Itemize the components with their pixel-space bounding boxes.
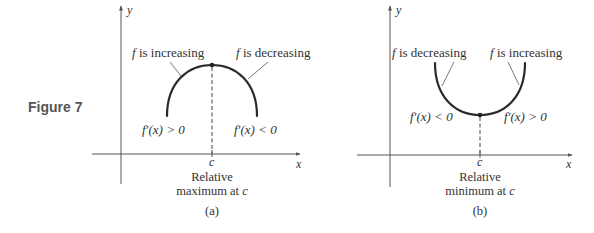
description-line2: minimum at c [445, 184, 515, 198]
y-axis-label: y [126, 3, 133, 17]
derivative-positive: f′(x) > 0 [504, 109, 547, 124]
description-line2: maximum at c [176, 184, 248, 198]
leader-decreasing [248, 62, 268, 79]
x-axis-label: x [565, 157, 572, 171]
leader-decreasing [442, 62, 454, 86]
derivative-negative: f′(x) < 0 [234, 122, 277, 137]
panel-b-relative-minimum: y x c f is decreasing f is increasing f′… [357, 3, 572, 218]
figure-7: Figure 7 y x c f is increasing f is decr… [0, 0, 594, 233]
description-line1: Relative [191, 170, 233, 184]
figure-label: Figure 7 [28, 99, 83, 115]
annotation-increasing: f is increasing [132, 45, 205, 60]
annotation-decreasing: f is decreasing [392, 45, 467, 60]
curve-concave-up [435, 63, 525, 115]
annotation-decreasing: f is decreasing [236, 45, 311, 60]
leader-increasing [170, 62, 181, 76]
y-axis-label: y [395, 3, 402, 17]
derivative-negative: f′(x) < 0 [410, 109, 453, 124]
panel-caption-a: (a) [205, 204, 219, 218]
annotation-increasing: f is increasing [490, 45, 563, 60]
panel-caption-b: (b) [473, 204, 488, 218]
minimum-point [478, 113, 483, 118]
panel-a-relative-maximum: y x c f is increasing f is decreasing f′… [92, 3, 311, 218]
maximum-point [210, 63, 215, 68]
c-label: c [209, 155, 215, 169]
x-axis-label: x [295, 157, 302, 171]
leader-increasing [508, 62, 519, 85]
description-line1: Relative [459, 170, 501, 184]
derivative-positive: f′(x) > 0 [142, 122, 185, 137]
c-label: c [477, 155, 483, 169]
